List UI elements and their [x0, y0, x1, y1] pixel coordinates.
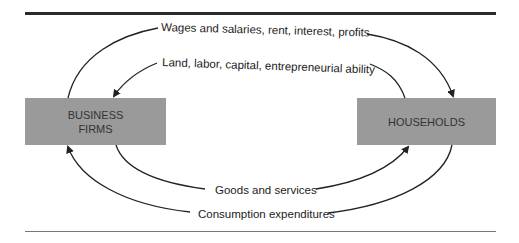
resources-flow-label: Land, labor, capital, entrepreneurial ab…: [162, 56, 375, 75]
resources-flow-arrow-right: [370, 64, 405, 98]
income-flow-arrow-left: [68, 28, 158, 98]
income-flow-arrow-right: [367, 34, 453, 96]
expenditures-flow-arrow-right: [328, 145, 452, 213]
goods-flow-arrow-left: [116, 145, 205, 189]
goods-flow-arrow-right: [316, 147, 408, 189]
income-flow-label: Wages and salaries, rent, interest, prof…: [161, 21, 370, 38]
goods-flow-label: Goods and services: [215, 184, 317, 196]
expenditures-flow-arrow-left: [68, 147, 190, 212]
resources-flow-arrow-left: [114, 63, 157, 96]
expenditures-flow-label: Consumption expenditures: [198, 208, 335, 220]
flow-arrows: Wages and salaries, rent, interest, prof…: [0, 0, 519, 243]
